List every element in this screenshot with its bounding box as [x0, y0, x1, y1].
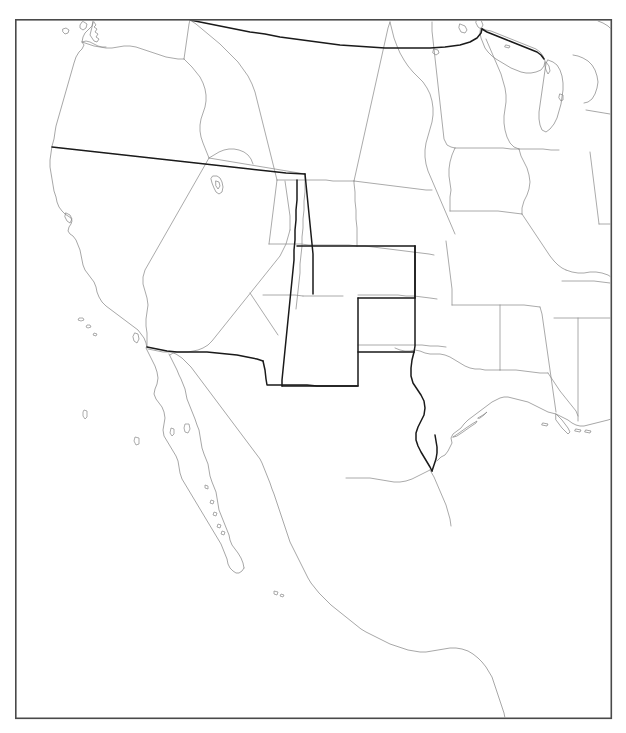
map-page [0, 0, 626, 733]
map-frame [16, 20, 612, 719]
map-canvas [0, 0, 626, 733]
